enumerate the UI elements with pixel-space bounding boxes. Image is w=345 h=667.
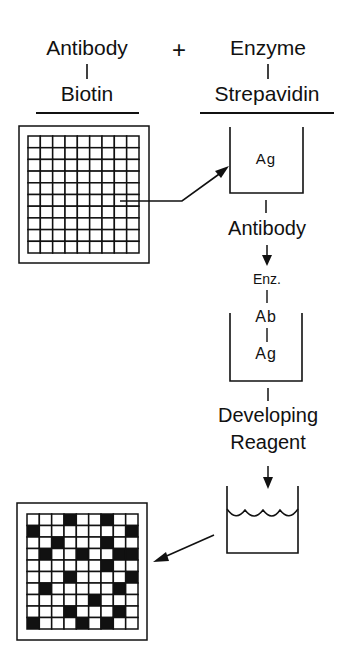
plate-cell xyxy=(65,148,77,160)
plate-cell xyxy=(40,171,52,183)
plate-cell xyxy=(27,595,39,607)
plate-cell xyxy=(65,136,77,148)
plate-cell xyxy=(39,560,51,572)
plate-cell xyxy=(89,572,101,584)
plate-cell xyxy=(127,230,139,242)
plate-cell xyxy=(40,195,52,207)
plate-cell-positive xyxy=(27,618,39,630)
plate-cell-positive xyxy=(39,583,51,595)
plate-cell-positive xyxy=(64,514,76,526)
plate-cell xyxy=(65,195,77,207)
plate-cell xyxy=(76,572,88,584)
microarray-plate-before xyxy=(19,126,149,263)
plate-cell xyxy=(40,136,52,148)
plate-cell xyxy=(126,560,138,572)
enzyme-strepavidin-conjugate: Enzyme Strepavidin xyxy=(200,36,334,113)
well-antigen: Ag xyxy=(230,127,303,193)
plate-cell xyxy=(76,514,88,526)
plate-cell xyxy=(127,241,139,253)
well-complex: Enz. Ab Ag xyxy=(230,271,302,381)
plate-cell xyxy=(102,159,114,171)
strepavidin-label: Strepavidin xyxy=(214,82,319,105)
plate-cell xyxy=(52,595,64,607)
plate-cell xyxy=(127,136,139,148)
plate-cell xyxy=(113,526,125,538)
result-arrow xyxy=(153,535,214,562)
plate-cell xyxy=(52,606,64,618)
plate-cell xyxy=(65,218,77,230)
plate-cell xyxy=(39,618,51,630)
plate-cell xyxy=(39,514,51,526)
plate-cell xyxy=(90,159,102,171)
plate-cell xyxy=(89,514,101,526)
plate-cell xyxy=(102,183,114,195)
plate-cell xyxy=(40,148,52,160)
plate-cell xyxy=(101,606,113,618)
plate-cell-positive xyxy=(101,537,113,549)
plate-cell xyxy=(114,159,126,171)
plate-cell xyxy=(27,572,39,584)
antibody-biotin-conjugate: Antibody Biotin xyxy=(36,36,139,113)
plate-cell xyxy=(64,537,76,549)
plate-cell xyxy=(27,560,39,572)
plate-cell xyxy=(90,241,102,253)
plate-cell xyxy=(126,606,138,618)
plate-cell xyxy=(28,148,40,160)
plate-cell xyxy=(114,206,126,218)
plate-cell xyxy=(65,241,77,253)
plate-cell xyxy=(27,583,39,595)
plate-cell xyxy=(113,595,125,607)
plate-cell xyxy=(64,595,76,607)
plate-cell xyxy=(77,230,89,242)
plate-cell xyxy=(126,595,138,607)
plate-cell-positive xyxy=(101,618,113,630)
plate-cell xyxy=(53,218,65,230)
plate-cell xyxy=(39,572,51,584)
plate-cell-positive xyxy=(126,549,138,561)
plate-cell-positive xyxy=(27,526,39,538)
plate-cell xyxy=(89,606,101,618)
microarray-plate-after xyxy=(17,503,147,640)
down-arrow-icon xyxy=(263,466,273,489)
plate-cell-positive xyxy=(64,606,76,618)
plate-cell xyxy=(40,183,52,195)
plate-cell xyxy=(64,618,76,630)
plate-cell-positive xyxy=(64,572,76,584)
plate-cell xyxy=(127,171,139,183)
plate-cell xyxy=(77,148,89,160)
plate-cell xyxy=(113,572,125,584)
plate-cell-positive xyxy=(113,606,125,618)
plate-cell xyxy=(77,218,89,230)
plate-cell xyxy=(77,171,89,183)
plate-cell xyxy=(40,159,52,171)
plate-grid xyxy=(28,136,139,253)
plate-cell xyxy=(113,560,125,572)
plate-cell xyxy=(114,241,126,253)
enzyme-label: Enzyme xyxy=(230,36,306,59)
plate-cell xyxy=(77,159,89,171)
plate-cell xyxy=(65,230,77,242)
plate-cell xyxy=(40,206,52,218)
plate-cell xyxy=(90,218,102,230)
plate-cell xyxy=(77,136,89,148)
plate-cell xyxy=(77,195,89,207)
plate-cell xyxy=(39,595,51,607)
plate-cell xyxy=(127,183,139,195)
plate-cell xyxy=(52,572,64,584)
plate-cell xyxy=(89,537,101,549)
plate-cell-positive xyxy=(76,618,88,630)
plate-cell xyxy=(53,206,65,218)
enzyme-abbrev-label: Enz. xyxy=(253,271,281,287)
plate-cell xyxy=(102,195,114,207)
arrowhead-icon xyxy=(153,552,169,562)
plate-cell xyxy=(126,618,138,630)
plate-cell xyxy=(52,618,64,630)
antibody-label: Antibody xyxy=(46,36,128,59)
plate-cell xyxy=(90,148,102,160)
plate-cell xyxy=(77,183,89,195)
plate-cell-positive xyxy=(113,583,125,595)
plate-cell xyxy=(76,583,88,595)
plate-cell xyxy=(28,136,40,148)
plate-cell xyxy=(52,549,64,561)
plate-cell xyxy=(114,230,126,242)
